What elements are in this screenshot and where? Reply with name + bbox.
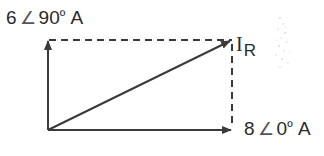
resultant-symbol: I bbox=[236, 33, 243, 55]
horizontal-phasor-label: 8∠0º A bbox=[244, 119, 311, 138]
angle-icon: ∠ bbox=[258, 119, 274, 139]
degree-symbol: º bbox=[287, 118, 292, 135]
angle-icon: ∠ bbox=[20, 8, 36, 28]
resultant-phasor-arrow bbox=[48, 41, 230, 130]
vertical-phasor-label: 6∠90º A bbox=[6, 8, 83, 27]
angle-value: 0 bbox=[277, 118, 288, 139]
resultant-label: IR bbox=[236, 34, 256, 59]
unit: A bbox=[70, 7, 83, 28]
resultant-subscript: R bbox=[244, 41, 256, 60]
magnitude: 6 bbox=[6, 7, 17, 28]
magnitude: 8 bbox=[244, 118, 255, 139]
speckle-artifact bbox=[275, 17, 290, 68]
degree-symbol: º bbox=[60, 7, 65, 24]
unit: A bbox=[298, 118, 311, 139]
angle-value: 90 bbox=[39, 7, 60, 28]
